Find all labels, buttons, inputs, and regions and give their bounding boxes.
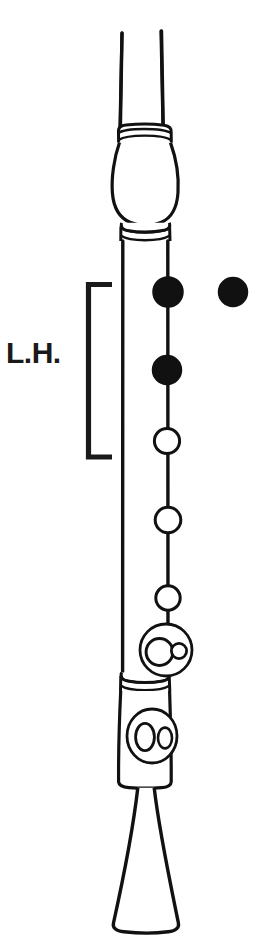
head-tube-right-wall bbox=[162, 31, 164, 127]
hole-2[interactable] bbox=[153, 356, 182, 385]
hole-4-circle[interactable] bbox=[155, 507, 181, 533]
hole-7-large-circle[interactable] bbox=[136, 723, 155, 750]
barrel-bulge bbox=[112, 124, 178, 241]
barrel-lower-ring-line-b bbox=[121, 236, 170, 241]
left-hand-label: L.H. bbox=[6, 338, 82, 368]
hole-5-circle[interactable] bbox=[156, 586, 180, 610]
hole-7[interactable] bbox=[127, 709, 177, 763]
hole-1-circle[interactable] bbox=[153, 277, 183, 307]
recorder-fingering-diagram: L.H. bbox=[0, 0, 256, 952]
hole-2-circle[interactable] bbox=[153, 356, 182, 385]
head-joint bbox=[120, 31, 163, 127]
thumb-hole[interactable] bbox=[219, 278, 248, 307]
body-left-wall bbox=[122, 241, 123, 672]
head-joint-left-edge bbox=[120, 31, 163, 127]
head-tube-left-wall bbox=[120, 33, 122, 127]
hole-5[interactable] bbox=[156, 586, 180, 610]
hole-6-large-circle[interactable] bbox=[146, 639, 173, 666]
barrel-bulb-outline bbox=[112, 143, 178, 226]
bell bbox=[113, 788, 178, 933]
thumb-hole-circle[interactable] bbox=[219, 278, 248, 307]
left-hand-bracket-shape bbox=[89, 285, 113, 458]
recorder-illustration bbox=[0, 0, 256, 952]
bell-outline bbox=[113, 788, 178, 933]
hole-4[interactable] bbox=[155, 507, 181, 533]
hole-3[interactable] bbox=[154, 428, 179, 453]
hole-6-small-circle[interactable] bbox=[171, 643, 186, 658]
barrel-upper-ring-line-b bbox=[119, 136, 172, 141]
left-hand-bracket bbox=[89, 285, 113, 458]
hole-7-small-circle[interactable] bbox=[158, 728, 172, 749]
hole-6[interactable] bbox=[140, 624, 192, 676]
hole-3-circle[interactable] bbox=[154, 428, 179, 453]
hole-1[interactable] bbox=[153, 277, 183, 307]
foot-collar-line-b bbox=[121, 686, 170, 691]
